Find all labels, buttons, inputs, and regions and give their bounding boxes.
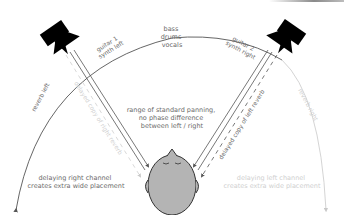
reverb-right-label: reverb right [296,87,320,123]
listener-head-icon [146,149,199,215]
delayed-copy-right-label: delayed copy of right reverb [72,80,124,157]
left-speaker-icon [40,16,85,61]
left-bottom-label: delaying right channel creates extra wid… [28,174,125,190]
right-bottom-label: delaying left channel creates extra wide… [224,174,321,190]
right-speaker-icon [262,15,307,60]
center-label: bass drums vocals [161,25,184,49]
center-range-label: range of standard panning, no phase diff… [127,106,218,130]
delayed-copy-left-label: delayed copy of left reverb [217,88,267,161]
right-source-label: guitar 2 synth right [224,33,260,62]
stereo-placement-diagram: bass drums vocals guitar 1 synth left gu… [0,0,344,215]
reverb-left-label: reverb left [30,81,51,112]
